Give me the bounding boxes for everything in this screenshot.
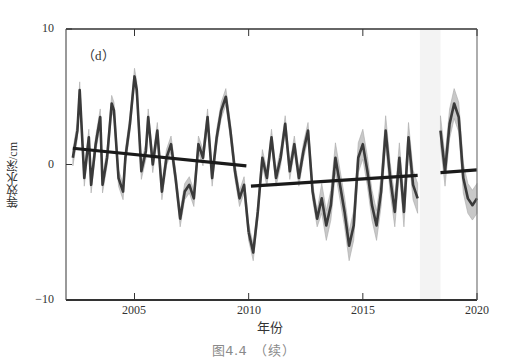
y-tick-minus10: −10 xyxy=(24,292,54,307)
x-tick-2010: 2010 xyxy=(229,303,269,318)
data-gap-shading xyxy=(420,29,441,300)
x-tick-2015: 2015 xyxy=(343,303,383,318)
figure-caption: 图4.4 （续） xyxy=(0,340,507,359)
y-tick-0: 0 xyxy=(24,157,54,172)
uncertainty-band-1 xyxy=(73,68,249,240)
series-line-2 xyxy=(249,124,418,253)
x-axis-label: 年份 xyxy=(240,317,300,336)
y-axis-label: 等效水深/cm xyxy=(4,130,26,220)
x-tick-2020: 2020 xyxy=(457,303,497,318)
y-tick-10: 10 xyxy=(24,21,54,36)
panel-label: （d） xyxy=(82,45,115,64)
x-tick-2005: 2005 xyxy=(114,303,154,318)
